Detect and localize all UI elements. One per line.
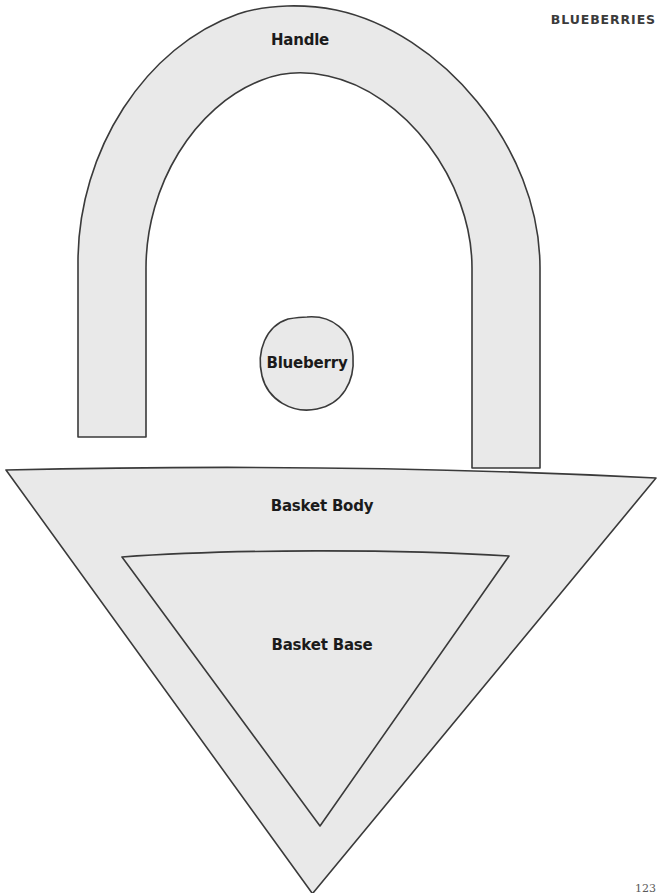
pattern-shapes-canvas <box>0 0 662 893</box>
pattern-page: Handle Blueberry Basket Body Basket Base… <box>0 0 662 893</box>
piece-label-blueberry: Blueberry <box>266 354 347 372</box>
chapter-title: BLUEBERRIES <box>551 12 656 27</box>
page-number: 123 <box>635 882 656 893</box>
piece-label-basket-body: Basket Body <box>271 497 374 515</box>
piece-label-handle: Handle <box>271 31 329 49</box>
piece-label-basket-base: Basket Base <box>271 636 372 654</box>
